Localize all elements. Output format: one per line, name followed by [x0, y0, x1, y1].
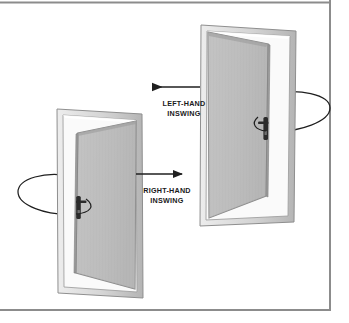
left-hand-label-line2: INSWING — [167, 109, 200, 118]
door-panel-grain — [76, 121, 136, 289]
right-hand-label-line1: RIGHT-HAND — [143, 186, 191, 195]
lock-escutcheon — [263, 117, 268, 140]
lever-handle — [76, 201, 87, 204]
door-panel-grain — [208, 32, 268, 218]
keyhole — [265, 131, 267, 135]
right-hand-label-line2: INSWING — [150, 196, 183, 205]
lever-handle — [258, 122, 269, 125]
right-hand-inswing-door: RIGHT-HAND INSWING — [18, 109, 191, 298]
diagram-canvas: LEFT-HAND INSWING — [0, 0, 349, 323]
door-handing-diagram: LEFT-HAND INSWING — [0, 0, 349, 323]
left-hand-label-line1: LEFT-HAND — [163, 99, 206, 108]
lock-escutcheon — [76, 196, 81, 219]
